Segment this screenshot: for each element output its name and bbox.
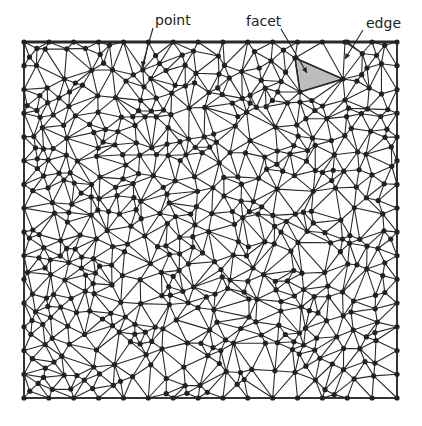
vertex-point (171, 39, 176, 44)
vertex-point (167, 302, 172, 307)
vertex-point (209, 211, 214, 216)
vertex-point (295, 240, 300, 245)
vertex-point (133, 123, 138, 128)
vertex-point (30, 292, 35, 297)
vertex-point (317, 356, 322, 361)
vertex-point (384, 127, 389, 132)
vertex-point (236, 239, 241, 244)
vertex-point (275, 187, 280, 192)
vertex-point (291, 268, 296, 273)
facet-highlight (295, 58, 343, 92)
vertex-point (190, 245, 195, 250)
delaunay-triangulation-diagram (0, 0, 422, 426)
vertex-point (207, 145, 212, 150)
vertex-point (304, 159, 309, 164)
vertex-point (110, 323, 115, 328)
vertex-point (95, 208, 100, 213)
vertex-point (322, 230, 327, 235)
vertex-point (230, 209, 235, 214)
vertex-point (347, 233, 352, 238)
vertex-point (130, 374, 135, 379)
vertex-point (363, 152, 368, 157)
vertex-point (322, 270, 327, 275)
vertex-point (394, 182, 399, 187)
vertex-point (91, 256, 96, 261)
vertex-point (394, 301, 399, 306)
vertex-point (389, 144, 394, 149)
vertex-point (21, 63, 26, 68)
vertex-point (272, 224, 277, 229)
vertex-point (21, 324, 26, 329)
vertex-point (64, 246, 69, 251)
vertex-point (173, 214, 178, 219)
vertex-point (303, 116, 308, 121)
vertex-point (160, 326, 165, 331)
vertex-point (242, 377, 247, 382)
vertex-point (280, 169, 285, 174)
vertex-point (368, 129, 373, 134)
vertex-point (275, 89, 280, 94)
vertex-point (376, 198, 381, 203)
vertex-point (96, 146, 101, 151)
vertex-point (157, 211, 162, 216)
vertex-point (50, 336, 55, 341)
vertex-point (295, 39, 300, 44)
vertex-point (109, 282, 114, 287)
vertex-point (46, 39, 51, 44)
vertex-point (132, 322, 137, 327)
vertex-point (138, 277, 143, 282)
vertex-point (138, 301, 143, 306)
vertex-point (50, 387, 55, 392)
vertex-point (359, 72, 364, 77)
vertex-point (206, 90, 211, 95)
vertex-point (79, 191, 84, 196)
vertex-point (134, 207, 139, 212)
vertex-point (21, 206, 26, 211)
vertex-point (342, 133, 347, 138)
vertex-point (364, 195, 369, 200)
vertex-point (89, 194, 94, 199)
vertex-point (131, 181, 136, 186)
vertex-point (148, 261, 153, 266)
vertex-point (235, 382, 240, 387)
vertex-point (284, 219, 289, 224)
vertex-point (97, 371, 102, 376)
vertex-point (346, 106, 351, 111)
vertex-point (341, 367, 346, 372)
vertex-point (372, 330, 377, 335)
vertex-point (320, 39, 325, 44)
vertex-point (40, 125, 45, 130)
vertex-point (136, 171, 141, 176)
vertex-point (270, 98, 275, 103)
vertex-point (210, 185, 215, 190)
vertex-point (89, 68, 94, 73)
vertex-point (83, 46, 88, 51)
vertex-point (360, 51, 365, 56)
vertex-point (333, 185, 338, 190)
vertex-point (75, 158, 80, 163)
vertex-point (348, 310, 353, 315)
vertex-point (21, 395, 26, 400)
vertex-point (378, 114, 383, 119)
vertex-point (33, 145, 38, 150)
vertex-point (41, 375, 46, 380)
vertex-point (146, 395, 151, 400)
vertex-point (151, 173, 156, 178)
vertex-point (283, 332, 288, 337)
vertex-point (44, 296, 49, 301)
vertex-point (278, 308, 283, 313)
vertex-point (71, 395, 76, 400)
vertex-point (174, 317, 179, 322)
vertex-point (180, 289, 185, 294)
vertex-point (225, 286, 230, 291)
vertex-point (394, 395, 399, 400)
vertex-point (379, 91, 384, 96)
vertex-point (120, 152, 125, 157)
vertex-point (382, 290, 387, 295)
vertex-point (21, 348, 26, 353)
vertex-point (369, 172, 374, 177)
vertex-point (278, 229, 283, 234)
vertex-point (332, 152, 337, 157)
vertex-point (227, 75, 232, 80)
vertex-point (167, 200, 172, 205)
